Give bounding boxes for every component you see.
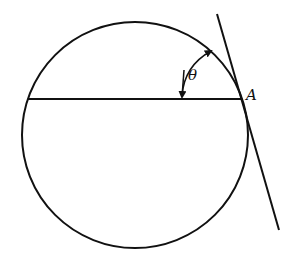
line-through-a (217, 14, 279, 230)
theta-label: θ (188, 66, 197, 84)
point-a-label: A (244, 86, 257, 104)
diagram-canvas: θ A (0, 0, 294, 261)
angle-arc-theta-start (182, 70, 184, 97)
circle (22, 22, 248, 248)
